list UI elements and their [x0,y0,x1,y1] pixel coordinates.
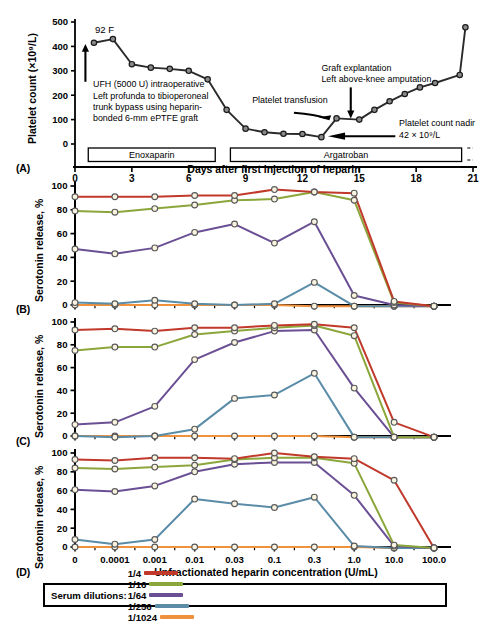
svg-c-data-point [152,433,158,439]
svg-d-series-line [75,458,434,548]
svg-c-data-point [112,434,118,440]
svg-d-data-point [272,505,278,511]
svg-b-data-point [431,303,437,309]
svg-d-x-tick-label: 0.03 [225,554,244,565]
svg-c-data-point [112,419,118,425]
panel-a-data-point [402,91,407,96]
svg-c-data-point [152,328,158,334]
panel-d-y-axis-label: Serotonin release, % [33,466,45,569]
legend-color-swatch [155,604,189,607]
svg-d-data-point [351,543,357,549]
panel-a-y-tick-label: 100 [52,114,68,125]
treatment-bar-label: Argatroban [324,150,369,160]
svg-d-data-point [391,477,397,483]
svg-c-y-tick-label: 40 [57,385,68,396]
svg-c-series-line [75,373,434,437]
panel-d-letter: (D) [16,566,30,578]
panel-a-nadir-arrow-head [328,133,345,140]
svg-c-data-point [431,434,437,440]
svg-d-data-point [232,456,238,462]
svg-d-x-tick-label: 0.001 [143,554,168,565]
svg-c-data-point [152,403,158,409]
legend-item-1-4: 1/4 [128,568,194,579]
panel-b-serotonin-chart: 020406080100 [0,176,490,319]
svg-d-x-tick-label: 100.0 [422,554,446,565]
legend-item-1-256: 1/256 [128,601,194,612]
svg-d-data-point [351,456,357,462]
legend-item-label: 1/64 [128,590,147,601]
svg-c-data-point [152,344,158,350]
svg-b-data-point [351,190,357,196]
panel-a-y-axis-label: Platelet count (×10⁹/L) [26,33,38,144]
legend-title: Serum dilutions: [51,590,127,601]
svg-b-data-point [311,219,317,225]
svg-b-data-point [152,245,158,251]
legend-item-label: 1/1024 [128,612,157,621]
svg-c-data-point [311,370,317,376]
legend-item-label: 1/256 [128,601,152,612]
svg-c-data-point [192,325,198,331]
legend-item-1-16: 1/16 [128,579,194,590]
panel-a-ufh-arrow-head [82,44,89,52]
panel-a-plot: 0100200300400500036912151821EnoxaparinAr… [0,0,490,178]
svg-d-data-point [112,489,118,495]
svg-b-data-point [192,202,198,208]
svg-c-data-point [112,344,118,350]
legend-color-swatch [144,571,178,574]
svg-c-data-point [311,321,317,327]
legend-color-swatch [149,593,183,596]
svg-c-data-point [72,433,78,439]
svg-d-data-point [232,501,238,507]
svg-c-data-point [192,357,198,363]
panel-a-data-point [319,134,324,139]
svg-b-data-point [232,221,238,227]
panel-a-data-point [457,72,462,77]
svg-d-data-point [152,464,158,470]
panel-b-plot: 020406080100 [0,176,490,319]
svg-d-data-point [192,496,198,502]
panel-a-data-point [224,107,229,112]
panel-a-data-point [300,131,305,136]
svg-d-x-tick-label: 1.0 [348,554,361,565]
svg-c-data-point [232,395,238,401]
svg-d-data-point [152,544,158,550]
svg-c-y-tick-label: 100 [51,316,67,327]
panel-a-graft-annotation-line: Graft explantation [321,63,391,73]
svg-b-data-point [72,194,78,200]
svg-b-data-point [232,193,238,199]
figure-root: 0100200300400500036912151821EnoxaparinAr… [0,0,490,621]
svg-b-data-point [311,303,317,309]
svg-c-data-point [351,385,357,391]
svg-d-data-point [112,466,118,472]
svg-c-data-point [391,419,397,425]
panel-a-ufh-annotation-line: trunk bypass using heparin- [93,102,202,112]
svg-d-y-tick-label: 100 [51,447,67,458]
svg-d-y-tick-label: 40 [57,504,68,515]
svg-d-data-point [72,465,78,471]
svg-b-data-point [72,300,78,306]
svg-b-data-point [311,279,317,285]
svg-c-y-tick-label: 80 [57,339,68,350]
svg-c-data-point [192,332,198,338]
svg-d-data-point [152,537,158,543]
panel-a-treatment-bar: Argatroban [230,148,461,162]
svg-d-series-line [75,497,434,548]
panel-a-data-point [262,130,267,135]
svg-b-data-point [192,193,198,199]
panel-a-temp-note: 92 F [95,24,114,35]
svg-b-data-point [152,194,158,200]
svg-d-data-point [311,544,317,550]
svg-d-data-point [112,458,118,464]
svg-b-data-point [351,197,357,203]
svg-d-data-point [431,545,437,551]
svg-b-y-tick-label: 40 [57,252,68,263]
svg-c-data-point [232,325,238,331]
legend-color-swatch [149,582,183,585]
panel-a-data-point [387,99,392,104]
svg-d-x-tick-label: 0.3 [308,554,321,565]
legend-item-label: 1/16 [128,579,147,590]
svg-b-data-point [272,240,278,246]
svg-c-data-point [72,422,78,428]
legend-item-label: 1/4 [128,568,141,579]
svg-b-series-line [75,190,434,307]
